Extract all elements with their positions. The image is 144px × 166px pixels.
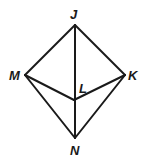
segment-ml	[25, 75, 74, 100]
label-k: K	[128, 68, 139, 83]
label-n: N	[70, 143, 80, 158]
label-j: J	[70, 7, 78, 22]
segment-jk	[75, 25, 125, 75]
label-m: M	[9, 68, 21, 83]
label-l: L	[79, 81, 87, 96]
segment-mn	[25, 75, 75, 138]
segment-jm	[25, 25, 75, 75]
geometry-diagram: J M K L N	[0, 0, 144, 166]
